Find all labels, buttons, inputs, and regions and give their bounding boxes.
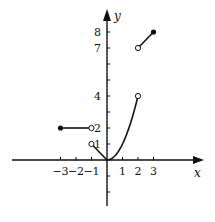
x-tick-label: −3 — [52, 165, 68, 178]
y-tick-label: 7 — [94, 42, 101, 55]
axes: x y −3−2−1123 12478 — [12, 9, 204, 206]
piecewise-function-graph: x y −3−2−1123 12478 — [0, 0, 215, 222]
x-tick-label: −1 — [83, 165, 99, 178]
plot-canvas: x y −3−2−1123 12478 — [0, 0, 215, 222]
x-tick-label: −2 — [68, 165, 84, 178]
y-tick-label: 8 — [94, 26, 101, 39]
open-dot-icon — [135, 45, 140, 50]
x-tick-label: 1 — [119, 165, 126, 178]
open-dot-icon — [135, 93, 140, 98]
x-tick-label: 2 — [135, 165, 142, 178]
closed-dot-icon — [151, 29, 156, 34]
function-piece-4 — [138, 32, 154, 48]
x-tick-label: 3 — [150, 165, 157, 178]
x-axis-arrow-icon — [193, 156, 204, 164]
closed-dot-icon — [58, 125, 63, 130]
y-tick-label: 4 — [94, 90, 101, 103]
y-tick-labels: 12478 — [94, 26, 101, 151]
y-axis-arrow-icon — [103, 9, 111, 21]
open-dot-icon — [89, 141, 94, 146]
open-dot-icon — [89, 125, 94, 130]
y-tick-label: 2 — [94, 122, 101, 135]
function-piece-3 — [107, 96, 138, 160]
y-axis-label: y — [113, 9, 121, 23]
x-tick-labels: −3−2−1123 — [52, 165, 157, 178]
x-axis-label: x — [194, 166, 201, 180]
